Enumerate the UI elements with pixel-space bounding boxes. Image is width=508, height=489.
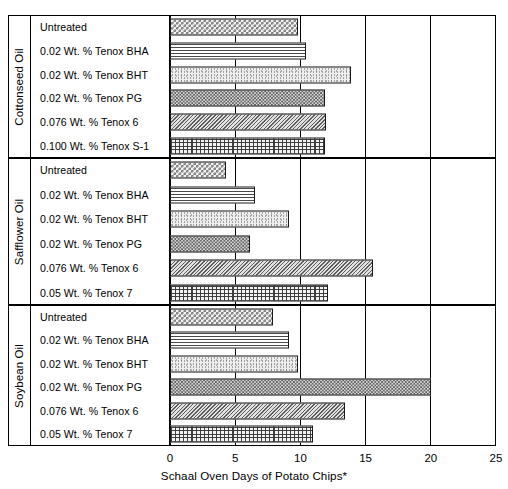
chart-row: Untreated: [30, 305, 496, 329]
oil-group-label-text: Safflower Oil: [13, 198, 25, 264]
chart-root: Cottonseed OilUntreated0.02 Wt. % Tenox …: [0, 0, 508, 489]
row-label: 0.02 Wt. % Tenox BHA: [40, 334, 149, 346]
bar: [170, 211, 289, 228]
chart-row: 0.076 Wt. % Tenox 6: [30, 399, 496, 423]
x-tick-label-15: 15: [359, 452, 372, 464]
oil-group-label-text: Soybean Oil: [13, 344, 25, 408]
bar: [170, 42, 306, 59]
row-label: 0.02 Wt. % Tenox BHA: [40, 189, 149, 201]
bar: [170, 355, 298, 372]
bar: [170, 260, 373, 277]
row-label: 0.02 Wt. % Tenox BHT: [40, 213, 148, 225]
row-label: Untreated: [40, 164, 87, 176]
x-tick-label-5: 5: [232, 452, 238, 464]
bar: [170, 308, 273, 325]
chart-row: 0.02 Wt. % Tenox BHA: [30, 39, 496, 63]
row-label: 0.076 Wt. % Tenox 6: [40, 116, 139, 128]
chart-row: 0.076 Wt. % Tenox 6: [30, 110, 496, 134]
chart-row: 0.02 Wt. % Tenox PG: [30, 87, 496, 111]
row-label: Untreated: [40, 21, 87, 33]
bar: [170, 90, 325, 107]
bar: [170, 402, 345, 419]
group-divider-1: [8, 157, 496, 159]
treatment-rows: Untreated0.02 Wt. % Tenox BHA0.02 Wt. % …: [30, 158, 496, 305]
bar: [170, 332, 289, 349]
row-label: 0.100 Wt. % Tenox S-1: [40, 140, 149, 152]
chart-row: 0.076 Wt. % Tenox 6: [30, 256, 496, 281]
oil-group-soybean-oil: Soybean OilUntreated0.02 Wt. % Tenox BHA…: [8, 305, 496, 446]
oil-group-label-text: Cottonseed Oil: [13, 48, 25, 125]
x-tick-label-20: 20: [424, 452, 437, 464]
bar: [170, 186, 255, 203]
bar: [170, 284, 328, 301]
row-label: 0.02 Wt. % Tenox BHT: [40, 358, 148, 370]
group-divider-2: [8, 304, 496, 306]
chart-row: Untreated: [30, 158, 496, 183]
chart-row: 0.02 Wt. % Tenox BHT: [30, 63, 496, 87]
treatment-rows: Untreated0.02 Wt. % Tenox BHA0.02 Wt. % …: [30, 305, 496, 446]
chart-row: 0.05 Wt. % Tenox 7: [30, 423, 496, 447]
chart-row: 0.100 Wt. % Tenox S-1: [30, 134, 496, 158]
row-label: 0.076 Wt. % Tenox 6: [40, 405, 139, 417]
treatment-rows: Untreated0.02 Wt. % Tenox BHA0.02 Wt. % …: [30, 15, 496, 158]
bar: [170, 379, 431, 396]
oil-group-label: Cottonseed Oil: [8, 15, 30, 158]
bar: [170, 138, 325, 155]
row-label: 0.02 Wt. % Tenox PG: [40, 92, 142, 104]
chart-row: 0.02 Wt. % Tenox BHA: [30, 183, 496, 208]
chart-row: Untreated: [30, 15, 496, 39]
chart-row: 0.05 Wt. % Tenox 7: [30, 281, 496, 306]
row-label: 0.05 Wt. % Tenox 7: [40, 287, 133, 299]
bar: [170, 66, 351, 83]
bar: [170, 426, 313, 443]
bar: [170, 114, 326, 131]
x-tick-label-25: 25: [490, 452, 503, 464]
bar: [170, 235, 250, 252]
row-label: 0.05 Wt. % Tenox 7: [40, 428, 133, 440]
chart-row: 0.02 Wt. % Tenox BHA: [30, 329, 496, 353]
chart-row: 0.02 Wt. % Tenox BHT: [30, 352, 496, 376]
row-label: 0.076 Wt. % Tenox 6: [40, 262, 139, 274]
row-label: 0.02 Wt. % Tenox PG: [40, 381, 142, 393]
oil-group-label: Soybean Oil: [8, 305, 30, 446]
oil-group-cottonseed-oil: Cottonseed OilUntreated0.02 Wt. % Tenox …: [8, 15, 496, 158]
oil-group-label: Safflower Oil: [8, 158, 30, 305]
x-tick-label-10: 10: [294, 452, 307, 464]
bar: [170, 162, 226, 179]
x-axis-caption: Schaal Oven Days of Potato Chips*: [0, 469, 508, 482]
chart-row: 0.02 Wt. % Tenox PG: [30, 232, 496, 257]
chart-row: 0.02 Wt. % Tenox PG: [30, 376, 496, 400]
oil-group-safflower-oil: Safflower OilUntreated0.02 Wt. % Tenox B…: [8, 158, 496, 305]
row-label: 0.02 Wt. % Tenox BHT: [40, 69, 148, 81]
row-label: 0.02 Wt. % Tenox BHA: [40, 45, 149, 57]
chart-row: 0.02 Wt. % Tenox BHT: [30, 207, 496, 232]
x-tick-label-0: 0: [167, 452, 173, 464]
bar: [170, 18, 298, 35]
row-label: 0.02 Wt. % Tenox PG: [40, 238, 142, 250]
row-label: Untreated: [40, 311, 87, 323]
